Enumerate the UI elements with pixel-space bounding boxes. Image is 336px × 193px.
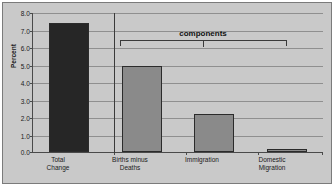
components-bracket-tick	[203, 41, 204, 47]
y-tick-mark	[30, 118, 33, 119]
x-category-label-domestic-migration: Domestic Migration	[244, 156, 300, 172]
x-category-label-line2: Deaths	[104, 164, 156, 172]
y-tick-mark	[30, 31, 33, 32]
y-tick-mark	[30, 13, 33, 14]
components-bracket	[120, 40, 287, 46]
y-tick-label: 0.0	[21, 149, 30, 156]
group-separator-line	[114, 13, 115, 153]
bar-total-change[interactable]	[49, 23, 89, 153]
y-tick-mark	[30, 101, 33, 102]
bar-births-minus-deaths[interactable]	[122, 66, 162, 152]
y-tick-label: 6.0	[21, 45, 30, 52]
bar-domestic-migration[interactable]	[267, 149, 307, 153]
x-category-label-line1: Births minus	[104, 156, 156, 164]
x-category-label-total-change: Total Change	[32, 156, 84, 172]
x-category-label-immigration: Immigration	[176, 156, 228, 164]
x-category-label-line2: Change	[32, 164, 84, 172]
y-tick-label: 4.0	[21, 80, 30, 87]
components-annotation-label: components	[118, 29, 288, 38]
x-tick-mark	[322, 152, 323, 155]
gridline: 0.0	[33, 152, 323, 153]
gridline: 8.0	[33, 13, 323, 14]
y-axis-title: Percent	[10, 44, 17, 68]
y-tick-mark	[30, 136, 33, 137]
y-tick-label: 8.0	[21, 10, 30, 17]
y-tick-mark	[30, 48, 33, 49]
chart-frame: Percent 8.0 7.0 6.0 5.0 4.0 3.0 2.0	[2, 2, 332, 184]
y-tick-label: 1.0	[21, 132, 30, 139]
x-category-label-births-minus-deaths: Births minus Deaths	[104, 156, 156, 172]
x-tick-mark	[258, 152, 259, 155]
y-tick-label: 7.0	[21, 27, 30, 34]
x-category-label-line2: Migration	[244, 164, 300, 172]
y-tick-mark	[30, 152, 33, 153]
y-tick-label: 3.0	[21, 97, 30, 104]
y-tick-label: 2.0	[21, 115, 30, 122]
x-category-label-line1: Immigration	[176, 156, 228, 164]
x-tick-mark	[186, 152, 187, 155]
y-tick-mark	[30, 66, 33, 67]
x-category-label-line1: Domestic	[244, 156, 300, 164]
y-tick-label: 5.0	[21, 62, 30, 69]
bar-immigration[interactable]	[194, 114, 234, 153]
y-tick-mark	[30, 83, 33, 84]
x-category-label-line1: Total	[32, 156, 84, 164]
